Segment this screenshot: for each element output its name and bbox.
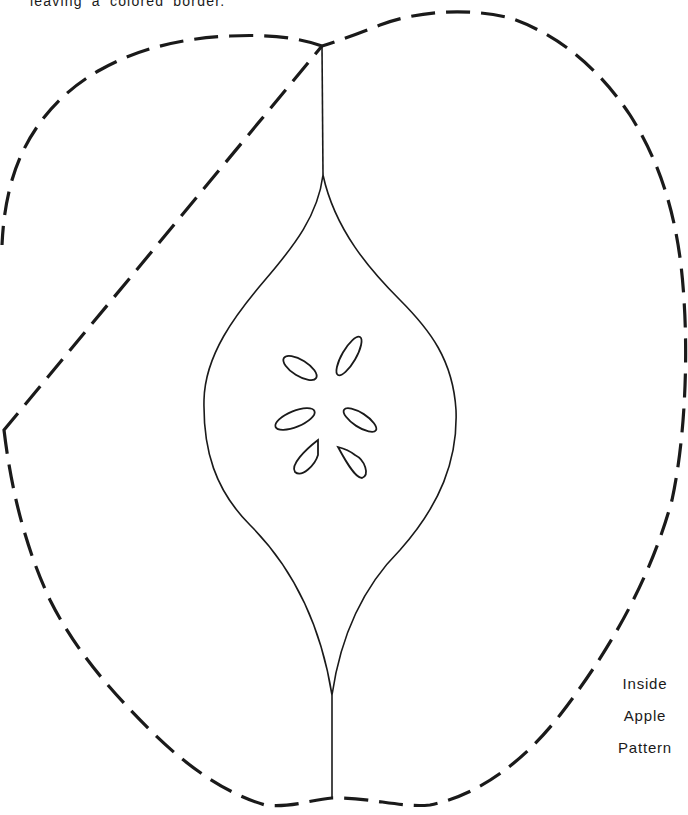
pattern-label-line1: Inside — [600, 668, 688, 700]
seed-icon — [332, 333, 366, 378]
seeds — [273, 333, 380, 478]
seed-icon — [338, 447, 366, 478]
pattern-label-line3: Pattern — [600, 732, 688, 764]
core-line-top — [322, 46, 323, 175]
apple-pattern-drawing — [0, 0, 688, 815]
pattern-label-line2: Apple — [600, 700, 688, 732]
pattern-label: Inside Apple Pattern — [600, 668, 688, 764]
seed-icon — [340, 404, 379, 436]
seed-icon — [294, 440, 318, 474]
seed-icon — [280, 351, 321, 385]
apple-core-outline — [204, 175, 456, 695]
seed-icon — [273, 404, 318, 435]
